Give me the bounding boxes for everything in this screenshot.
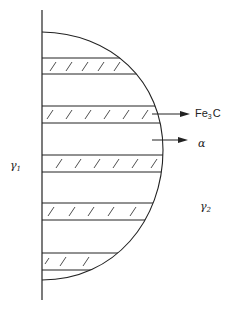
nodule-boundary-curve: [42, 32, 163, 280]
label-alpha: α: [198, 138, 205, 149]
label-gamma1: γ1: [10, 160, 21, 173]
cementite-lamella-3: [42, 155, 170, 172]
cementite-lamella-4: [42, 203, 170, 220]
label-fe3c: Fe3C: [195, 108, 221, 120]
diagram-drawing: [0, 0, 230, 313]
pearlite-diagram: Fe3C α γ1 γ2: [0, 0, 230, 313]
label-gamma2: γ2: [200, 201, 211, 214]
arrow-alpha: [152, 137, 188, 143]
cementite-lamella-2: [42, 106, 170, 123]
cementite-lamella-1: [42, 58, 170, 74]
